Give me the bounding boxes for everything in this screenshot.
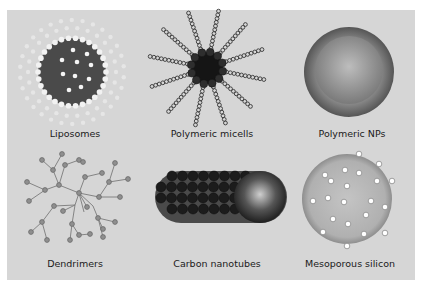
- label-mesoporous-silicon: Mesoporous silicon: [280, 258, 420, 269]
- dendrimer-icon: [7, 140, 147, 270]
- liposome-icon: [7, 10, 147, 140]
- label-dendrimers: Dendrimers: [5, 258, 145, 269]
- nanocarrier-figure: Liposomes Polymeric micells Polymeric NP…: [7, 10, 415, 280]
- label-polymeric-micells: Polymeric micells: [142, 128, 282, 139]
- carbon-nanotube-icon: [142, 140, 292, 270]
- label-liposomes: Liposomes: [5, 128, 145, 139]
- label-carbon-nanotubes: Carbon nanotubes: [147, 258, 287, 269]
- mesoporous-silicon-icon: [287, 140, 424, 270]
- label-polymeric-nps: Polymeric NPs: [282, 128, 422, 139]
- polymeric-micelle-icon: [142, 10, 282, 140]
- polymeric-nanoparticle-icon: [277, 10, 417, 140]
